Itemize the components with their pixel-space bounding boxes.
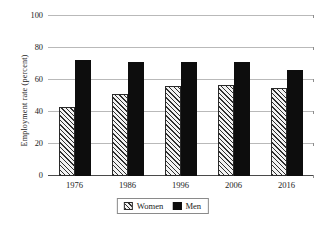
legend-entry-men: Men	[172, 201, 201, 211]
legend-label: Men	[185, 201, 201, 211]
y-axis-tick-label: 80	[35, 43, 43, 52]
x-axis-tick-label: 1996	[172, 180, 189, 196]
y-axis-tick-label: 20	[35, 139, 43, 148]
bar-group	[218, 16, 250, 176]
y-axis-tick-label: 60	[35, 75, 43, 84]
bar-men-1986	[128, 62, 144, 176]
bar-women-1976	[59, 107, 75, 176]
legend: WomenMen	[117, 198, 209, 214]
bar-women-2016	[271, 88, 287, 176]
x-axis-tick-label: 2016	[278, 180, 295, 196]
y-axis-title: Employment rate (percent)	[20, 21, 29, 181]
right-edge-tick	[313, 111, 314, 114]
x-axis-tick-label: 1986	[119, 180, 136, 196]
bar-group	[59, 16, 91, 176]
right-edge-tick	[313, 47, 314, 50]
bar-men-2006	[234, 62, 250, 176]
x-axis-tick-labels: 19761986199620062016	[48, 180, 313, 196]
bar-group	[271, 16, 303, 176]
y-axis-tick-label: 0	[39, 171, 43, 180]
legend-swatch-men-icon	[172, 202, 181, 210]
bar-men-1976	[75, 60, 91, 176]
bar-groups	[48, 16, 313, 176]
bar-women-2006	[218, 85, 234, 176]
legend-entry-women: Women	[124, 201, 164, 211]
right-edge-tick	[313, 175, 314, 178]
bar-women-1996	[165, 86, 181, 176]
right-edge-tick	[313, 15, 314, 18]
bar-men-2016	[287, 70, 303, 176]
right-edge-tick	[313, 79, 314, 82]
plot-area: 020406080100	[48, 16, 313, 176]
bar-men-1996	[181, 62, 197, 176]
y-axis-tick-label: 40	[35, 107, 43, 116]
y-axis-tick-label: 100	[30, 11, 43, 20]
bar-group	[112, 16, 144, 176]
bar-women-1986	[112, 94, 128, 176]
bar-group	[165, 16, 197, 176]
x-axis-tick-label: 2006	[225, 180, 242, 196]
bar-chart: Employment rate (percent) 020406080100 1…	[0, 0, 326, 226]
legend-swatch-women-icon	[124, 202, 133, 210]
right-edge-tick	[313, 143, 314, 146]
legend-label: Women	[137, 201, 164, 211]
x-axis-tick-label: 1976	[66, 180, 83, 196]
